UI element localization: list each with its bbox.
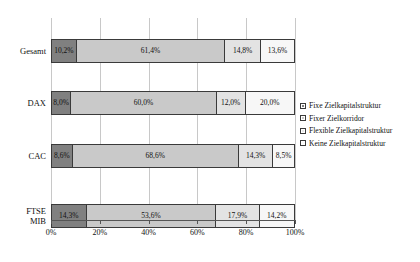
bar-segment: 14,3%	[52, 205, 87, 227]
x-tick-label: 40%	[129, 228, 169, 237]
bar-segment: 8,0%	[52, 92, 71, 114]
x-tick-mark	[197, 220, 198, 224]
bar-row: 14,3%53,6%17,9%14,2%	[51, 204, 295, 228]
x-tick-label: 20%	[80, 228, 120, 237]
bar-segment: 17,9%	[216, 205, 259, 227]
category-label: Gesamt	[0, 46, 46, 56]
x-tick-label: 0%	[31, 228, 71, 237]
stacked-bar-chart: 10,2%61,4%14,8%13,6%8,0%60,0%12,0%20,0%8…	[0, 0, 420, 262]
bar-segment: 60,0%	[71, 92, 216, 114]
bar-segment: 12,0%	[217, 92, 246, 114]
bar-row: 10,2%61,4%14,8%13,6%	[51, 39, 295, 63]
chart-legend: Fixe ZielkapitalstrukturFixer Zielkorrid…	[300, 101, 420, 151]
x-tick-label: 100%	[275, 228, 315, 237]
legend-item: Fixe Zielkapitalstruktur	[300, 101, 420, 110]
legend-item: Keine Zielkapitalstruktur	[300, 139, 420, 148]
legend-swatch-icon	[300, 128, 306, 134]
legend-label: Fixe Zielkapitalstruktur	[309, 101, 381, 110]
x-tick-mark	[246, 220, 247, 224]
x-tick-mark	[51, 220, 52, 224]
x-tick-mark	[100, 220, 101, 224]
legend-item: Fixer Zielkorridor	[300, 114, 420, 123]
bar-segment: 14,3%	[239, 145, 274, 167]
bar-segment: 8,5%	[273, 145, 294, 167]
bar-segment: 61,4%	[77, 40, 226, 62]
x-tick-label: 60%	[177, 228, 217, 237]
x-axis-line	[51, 220, 295, 221]
bar-row: 8,0%60,0%12,0%20,0%	[51, 91, 295, 115]
plot-area: 10,2%61,4%14,8%13,6%8,0%60,0%12,0%20,0%8…	[51, 18, 295, 220]
category-label: FTSEMIB	[0, 206, 46, 226]
legend-label: Keine Zielkapitalstruktur	[309, 139, 386, 148]
legend-label: Fixer Zielkorridor	[309, 114, 364, 123]
x-tick-mark	[295, 220, 296, 224]
x-tick-mark	[149, 220, 150, 224]
bar-segment: 10,2%	[52, 40, 77, 62]
category-label: DAX	[0, 98, 46, 108]
x-tick-label: 80%	[226, 228, 266, 237]
legend-swatch-icon	[300, 103, 306, 109]
legend-swatch-icon	[300, 140, 306, 146]
legend-item: Flexible Zielkapitalstruktur	[300, 126, 420, 135]
legend-swatch-icon	[300, 115, 306, 121]
bar-segment: 68,6%	[73, 145, 239, 167]
bar-segment: 13,6%	[261, 40, 294, 62]
bar-row: 8,6%68,6%14,3%8,5%	[51, 144, 295, 168]
bar-segment: 14,8%	[225, 40, 261, 62]
bar-segment: 14,2%	[260, 205, 294, 227]
gridline-100	[295, 18, 296, 220]
bar-segment: 20,0%	[246, 92, 294, 114]
category-label: CAC	[0, 151, 46, 161]
legend-label: Flexible Zielkapitalstruktur	[309, 126, 392, 135]
bar-segment: 8,6%	[52, 145, 73, 167]
